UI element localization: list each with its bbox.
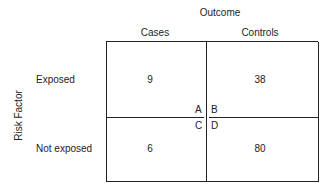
- table-top-border: [107, 41, 318, 42]
- row-label-not-exposed: Not exposed: [36, 143, 92, 154]
- table-left-border: [106, 41, 107, 182]
- column-label-controls: Controls: [220, 27, 300, 38]
- cell-letter-d: D: [211, 120, 218, 131]
- table-right-border: [318, 42, 319, 182]
- cell-not-exposed-cases: 6: [130, 143, 170, 154]
- cell-not-exposed-controls: 80: [240, 143, 280, 154]
- outcome-header: Outcome: [160, 7, 280, 18]
- cell-letter-a: A: [195, 104, 202, 115]
- risk-factor-header: Risk Factor: [13, 76, 24, 156]
- column-label-cases: Cases: [120, 27, 190, 38]
- cell-letter-b: B: [211, 104, 218, 115]
- row-label-exposed: Exposed: [36, 74, 75, 85]
- table-vertical-divider: [206, 42, 207, 182]
- cell-exposed-cases: 9: [130, 74, 170, 85]
- cell-exposed-controls: 38: [240, 74, 280, 85]
- cell-letter-c: C: [195, 120, 202, 131]
- table-horizontal-divider-right: [209, 117, 318, 118]
- table-horizontal-divider-left: [107, 117, 204, 118]
- table-bottom-border: [107, 181, 318, 182]
